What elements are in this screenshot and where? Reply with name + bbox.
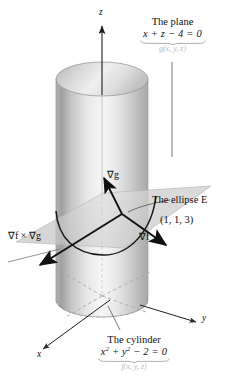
- gradient-f-label: ∇f: [139, 232, 149, 243]
- gradient-g-label: ∇g: [107, 170, 119, 181]
- cylinder-title: The cylinder: [78, 334, 190, 345]
- axis-y: [140, 305, 196, 322]
- plane-function: g(x, y, z): [118, 45, 227, 54]
- axis-z-label: z: [99, 7, 103, 17]
- plane-label: The plane x + z − 4 = 0 g(x, y, z): [118, 16, 227, 53]
- plane-title: The plane: [118, 16, 227, 27]
- axis-y-label: y: [202, 313, 206, 323]
- gradient-cross-label: ∇f × ∇g: [8, 231, 41, 242]
- cylinder-equation-text: x2 + y2 − 2 = 0: [101, 346, 167, 357]
- point-coordinates-label: (1, 1, 3): [160, 214, 193, 225]
- cylinder-label: The cylinder x2 + y2 − 2 = 0 f(x, y, z): [78, 334, 190, 371]
- ellipse-label: The ellipse E: [152, 194, 207, 205]
- axis-x-label: x: [37, 349, 41, 359]
- ellipse-label-text: The ellipse E: [152, 194, 207, 205]
- figure-canvas: [0, 0, 227, 381]
- cylinder-equation: x2 + y2 − 2 = 0: [78, 346, 190, 357]
- plane-equation: x + z − 4 = 0: [118, 28, 227, 39]
- cylinder-function: f(x, y, z): [78, 363, 190, 372]
